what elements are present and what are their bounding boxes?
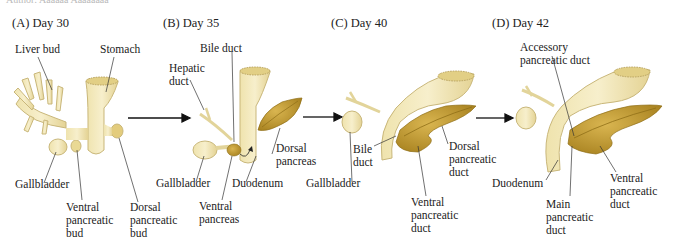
arrow-a-to-b [182,114,190,122]
pancreas-shape [568,105,662,154]
label-hepatic-duct: Hepatic duct [169,62,205,88]
label-duodenum: Duodenum [232,177,283,190]
gallbladder-shape [342,111,362,133]
label-gallbladder: Gallbladder [306,177,360,190]
gallbladder-shape [49,139,67,155]
panel-title-d: (D) Day 42 [492,16,549,31]
gallbladder-shape [516,107,536,129]
stomach-shape [86,78,118,154]
label-dorsal-pancreatic-bud: Dorsal pancreatic bud [130,201,177,240]
ventral-pancreas-shape [227,144,241,156]
label-dorsal-pancreas: Dorsal pancreas [276,142,316,168]
panel-title-c: (C) Day 40 [331,16,387,31]
label-main-pancreatic-duct: Main pancreatic duct [546,198,593,237]
ventral-bud-shape [71,140,81,152]
dorsal-bud-shape [111,124,123,138]
label-liver-bud: Liver bud [15,43,60,56]
arrow-c-to-d [505,114,513,122]
label-bile-duct: Bile duct [353,143,373,169]
hepatic-duct-shape [200,114,232,140]
panel-d-art [516,67,662,172]
arrow-b-to-c [334,113,342,121]
label-dorsal-pancreatic-duct: Dorsal pancreatic duct [449,140,496,179]
stomach-opening [86,77,118,85]
liver-bud-shape [14,72,66,134]
label-ventral-pancreatic-bud: Ventral pancreatic bud [66,201,113,240]
label-bile-duct: Bile duct [200,42,242,55]
label-ventral-pancreatic-duct: Ventral pancreatic duct [411,196,458,235]
label-gallbladder: Gallbladder [156,177,210,190]
label-accessory-pancreatic-duct: Accessory pancreatic duct [520,41,590,67]
caption-fragment: Author: Aaaaaa Aaaaaaaa [6,0,109,5]
label-ventral-pancreas: Ventral pancreas [199,200,239,226]
label-duodenum: Duodenum [492,177,543,190]
gallbladder-shape [193,141,217,159]
panel-a-art [14,72,123,155]
label-stomach: Stomach [100,43,140,56]
label-ventral-pancreatic-duct: Ventral pancreatic duct [610,172,657,211]
panel-title-b: (B) Day 35 [163,16,219,31]
panel-title-a: (A) Day 30 [12,16,69,31]
label-gallbladder: Gallbladder [15,178,69,191]
